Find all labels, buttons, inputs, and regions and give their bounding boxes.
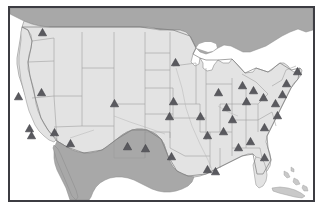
map-screenshot — [0, 0, 323, 216]
map-canvas — [10, 8, 313, 200]
map-frame — [8, 6, 315, 202]
